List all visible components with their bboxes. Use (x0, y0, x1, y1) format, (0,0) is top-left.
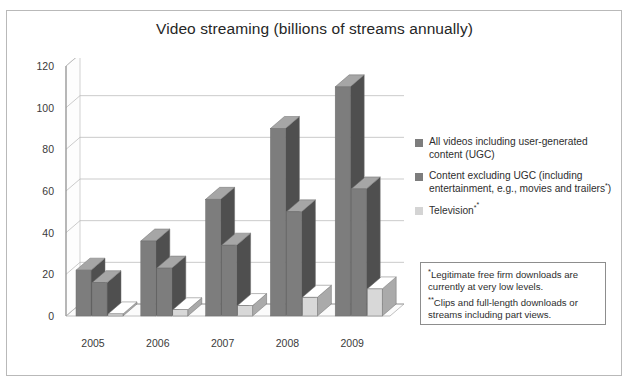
legend-item-label: Content excluding UGC (including enterta… (429, 170, 615, 195)
screenshot-root: Video streaming (billions of streams ann… (0, 0, 629, 383)
footnote-2: **Clips and full-length downloads or str… (428, 297, 598, 320)
legend-swatch-icon (415, 207, 423, 215)
x-axis-tick: 2009 (341, 337, 364, 349)
legend-item-label: Television** (429, 204, 479, 217)
footnote-marker: * (428, 267, 431, 276)
footnote-marker: ** (428, 295, 434, 304)
bar-chart-svg (60, 58, 412, 330)
footnote-1: *Legitimate free firm downloads are curr… (428, 269, 598, 292)
legend-item-all-videos-ugc[interactable]: All videos including user-generated cont… (415, 136, 615, 161)
legend-swatch-icon (415, 173, 423, 181)
x-axis-tick: 2006 (146, 337, 169, 349)
page-title: Video streaming (billions of streams ann… (0, 20, 629, 38)
y-axis-tick: 100 (20, 102, 54, 114)
y-axis-tick: 120 (20, 60, 54, 72)
y-axis-tick: 0 (20, 310, 54, 322)
legend-item-content-excluding-ugc[interactable]: Content excluding UGC (including enterta… (415, 170, 615, 195)
x-axis-tick: 2005 (81, 337, 104, 349)
x-axis-labels: 20052006200720082009 (60, 337, 412, 355)
chart-plot-area (60, 58, 412, 330)
y-axis-tick: 20 (20, 268, 54, 280)
footnote-box: *Legitimate free firm downloads are curr… (420, 262, 606, 325)
legend-item-label: All videos including user-generated cont… (429, 136, 615, 161)
chart-legend: All videos including user-generated cont… (415, 136, 615, 227)
y-axis-tick: 60 (20, 185, 54, 197)
legend-swatch-icon (415, 139, 423, 147)
x-axis-tick: 2007 (211, 337, 234, 349)
y-axis-tick: 80 (20, 143, 54, 155)
x-axis-tick: 2008 (276, 337, 299, 349)
y-axis-labels: 020406080100120 (16, 58, 54, 330)
y-axis-tick: 40 (20, 227, 54, 239)
legend-item-television[interactable]: Television** (415, 204, 615, 217)
